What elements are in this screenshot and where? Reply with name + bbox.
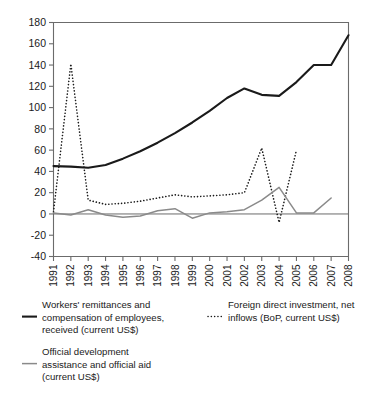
legend-label-line: Workers' remittances and — [42, 299, 150, 310]
x-tick-label: 2006 — [308, 264, 319, 287]
line-chart: -40-20020406080100120140160180 199119921… — [0, 0, 390, 410]
x-tick-label: 2008 — [343, 264, 354, 287]
y-tick-label: 140 — [28, 59, 46, 71]
x-tick-label: 1992 — [65, 264, 76, 287]
legend-label-line: (current US$) — [42, 371, 100, 382]
legend-label-line: Foreign direct investment, net — [228, 299, 355, 310]
legend-label-line: received (current US$) — [42, 324, 139, 335]
x-tick-label: 1997 — [152, 264, 163, 287]
legend-label-line: assistance and official aid — [42, 359, 151, 370]
x-tick-label: 2001 — [222, 264, 233, 287]
y-tick-label: 20 — [34, 186, 46, 198]
x-tick-label: 2004 — [274, 264, 285, 287]
x-tick-label: 1995 — [118, 264, 129, 287]
y-tick-label: -20 — [31, 229, 46, 241]
x-tick-label: 1991 — [48, 264, 59, 287]
x-tick-label: 2005 — [291, 264, 302, 287]
y-tick-label: 100 — [28, 101, 46, 113]
x-tick-label: 2003 — [256, 264, 267, 287]
legend-label-line: compensation of employees, — [42, 312, 164, 323]
x-tick-label: 1994 — [100, 264, 111, 287]
y-tick-label: 40 — [34, 165, 46, 177]
x-tick-label: 2002 — [239, 264, 250, 287]
y-tick-label: 80 — [34, 123, 46, 135]
y-tick-label: 60 — [34, 144, 46, 156]
y-tick-label: -40 — [31, 250, 46, 262]
x-tick-label: 1999 — [187, 264, 198, 287]
chart-container: -40-20020406080100120140160180 199119921… — [0, 0, 390, 410]
legend-label-line: Official development — [42, 346, 129, 357]
x-tick-label: 2000 — [204, 264, 215, 287]
legend-label-line: inflows (BoP, current US$) — [228, 312, 340, 323]
y-tick-label: 0 — [40, 208, 46, 220]
y-tick-label: 120 — [28, 80, 46, 92]
legend-entry-fdi: Foreign direct investment, netinflows (B… — [208, 299, 355, 323]
y-tick-label: 180 — [28, 16, 46, 28]
x-tick-label: 1998 — [170, 264, 181, 287]
x-tick-label: 2007 — [326, 264, 337, 287]
x-tick-label: 1996 — [135, 264, 146, 287]
x-tick-label: 1993 — [83, 264, 94, 287]
y-tick-label: 160 — [28, 37, 46, 49]
